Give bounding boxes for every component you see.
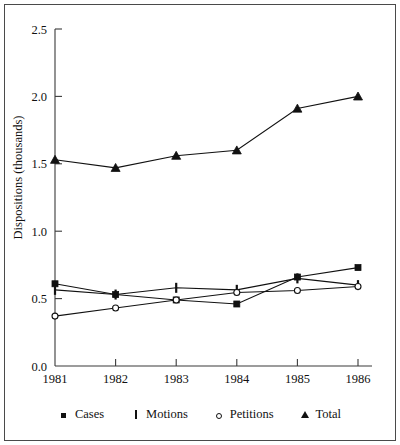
y-tick-label: 2.0 xyxy=(31,90,47,104)
x-tick-label: 1983 xyxy=(164,372,189,386)
vertical-bar-icon xyxy=(130,409,141,420)
x-tick-label: 1986 xyxy=(346,372,371,386)
legend-item-total[interactable]: Total xyxy=(300,408,342,421)
x-tick-label: 1984 xyxy=(224,372,250,386)
open-circle-icon xyxy=(214,409,225,420)
marker-filled-triangle-icon xyxy=(51,155,60,163)
legend-label-motions: Motions xyxy=(146,408,188,421)
marker-filled-triangle-icon xyxy=(232,146,241,154)
x-tick-label: 1982 xyxy=(103,372,128,386)
series-line-total xyxy=(55,96,358,167)
y-tick-label: 2.5 xyxy=(31,23,47,37)
legend-item-cases[interactable]: Cases xyxy=(59,408,104,421)
line-chart-plot: 0.00.51.01.52.02.51981198219831984198519… xyxy=(0,0,400,445)
series-line-petitions xyxy=(55,286,358,316)
legend-item-motions[interactable]: Motions xyxy=(130,408,188,421)
marker-open-circle-icon xyxy=(294,288,300,294)
legend-label-petitions: Petitions xyxy=(230,408,274,421)
marker-open-circle-icon xyxy=(234,290,240,296)
y-tick-label: 1.0 xyxy=(31,225,47,239)
legend-label-total: Total xyxy=(316,408,342,421)
filled-square-icon xyxy=(59,409,70,420)
marker-filled-square-icon xyxy=(355,265,361,271)
marker-open-circle-icon xyxy=(113,305,119,311)
marker-filled-square-icon xyxy=(234,301,240,307)
y-tick-label: 1.5 xyxy=(31,157,47,171)
series-line-cases xyxy=(55,268,358,304)
y-axis-title: Dispositions (thousands) xyxy=(11,116,25,240)
y-tick-label: 0.5 xyxy=(31,292,47,306)
chart-figure: 0.00.51.01.52.02.51981198219831984198519… xyxy=(0,0,400,445)
filled-triangle-icon xyxy=(300,409,311,420)
marker-open-circle-icon xyxy=(52,313,58,319)
x-tick-label: 1981 xyxy=(43,372,68,386)
marker-open-circle-icon xyxy=(355,283,361,289)
marker-open-circle-icon xyxy=(173,297,179,303)
marker-filled-triangle-icon xyxy=(354,92,363,100)
legend-item-petitions[interactable]: Petitions xyxy=(214,408,274,421)
chart-legend: Cases Motions Petitions Total xyxy=(0,408,400,421)
legend-label-cases: Cases xyxy=(75,408,104,421)
x-tick-label: 1985 xyxy=(285,372,310,386)
